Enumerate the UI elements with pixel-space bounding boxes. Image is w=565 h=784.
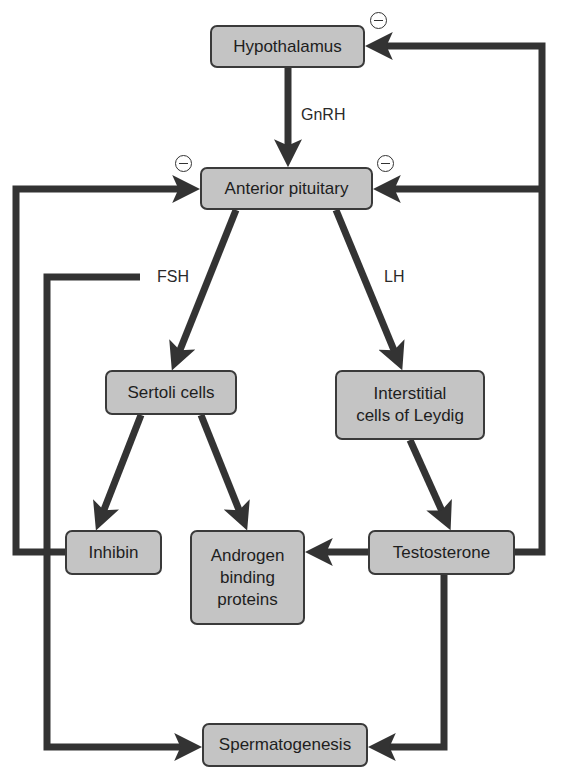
node-leydig-cells: Interstitial cells of Leydig (335, 370, 485, 440)
testosterone-to-spermatogenesis-arrow (379, 575, 444, 747)
leydig-to-testosterone-arrow (410, 440, 446, 520)
node-androgen-binding-proteins: Androgen binding proteins (190, 530, 305, 625)
node-spermatogenesis-label: Spermatogenesis (219, 734, 351, 756)
sertoli-to-inhibin-arrow (100, 415, 141, 520)
node-inhibin-label: Inhibin (88, 542, 138, 564)
testosterone-to-hypothalamus-arrow (376, 46, 542, 552)
fsh-to-spermatogenesis-arrow (47, 277, 191, 747)
node-anterior-pituitary: Anterior pituitary (200, 167, 373, 210)
node-leydig-cells-label: Interstitial cells of Leydig (356, 383, 464, 427)
node-sertoli-cells-label: Sertoli cells (128, 382, 215, 404)
node-sertoli-cells: Sertoli cells (105, 370, 237, 415)
node-anterior-pituitary-label: Anterior pituitary (225, 178, 349, 200)
inhibition-minus-icon-pituitary-right (377, 155, 394, 172)
gnrh-label: GnRH (301, 106, 345, 124)
node-androgen-binding-proteins-label: Androgen binding proteins (211, 545, 285, 611)
sertoli-to-abp-arrow (201, 415, 243, 520)
node-hypothalamus: Hypothalamus (210, 25, 365, 68)
lh-label: LH (384, 268, 404, 286)
node-spermatogenesis: Spermatogenesis (202, 723, 368, 767)
node-testosterone-label: Testosterone (393, 542, 490, 564)
hpg-axis-diagram: Hypothalamus Anterior pituitary Sertoli … (0, 0, 565, 784)
node-inhibin: Inhibin (65, 530, 162, 575)
fsh-label: FSH (157, 268, 189, 286)
inhibition-minus-icon-hypothalamus (370, 12, 387, 29)
inhibition-minus-icon-pituitary-left (175, 155, 192, 172)
node-hypothalamus-label: Hypothalamus (233, 36, 342, 58)
node-testosterone: Testosterone (368, 530, 515, 575)
